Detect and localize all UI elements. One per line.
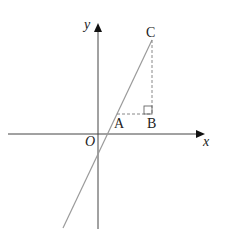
point-c-label: C	[146, 25, 155, 40]
right-angle-marker	[144, 106, 152, 114]
y-axis-arrow-icon	[94, 23, 102, 32]
origin-label: O	[85, 134, 95, 149]
y-axis-label: y	[82, 17, 91, 32]
point-a-label: A	[114, 116, 125, 131]
point-b-label: B	[147, 116, 156, 131]
y-axis	[94, 23, 102, 229]
x-axis-label: x	[202, 134, 210, 149]
coordinate-diagram: y x O C A B	[0, 0, 226, 235]
